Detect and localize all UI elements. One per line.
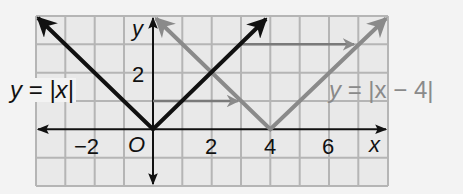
x-tick-4: 4 <box>264 136 276 158</box>
equation-right-rest: = |x − 4| <box>341 76 434 103</box>
x-tick-6: 6 <box>322 136 334 158</box>
equation-y-abs-x-minus-4: y = |x − 4| <box>329 78 434 102</box>
y-axis-label: y <box>132 18 143 40</box>
x-tick-neg2: −2 <box>74 136 99 158</box>
equation-left-abs: |x| <box>49 76 73 103</box>
equation-y-abs-x: y = |x| <box>8 78 76 102</box>
equation-left-equals: = <box>22 76 49 103</box>
equation-right-y: y <box>329 76 341 103</box>
y-tick-2: 2 <box>132 64 144 86</box>
equation-left-y: y <box>10 76 22 103</box>
x-axis-label: x <box>369 134 380 156</box>
origin-label: O <box>128 134 145 156</box>
x-tick-2: 2 <box>205 136 217 158</box>
